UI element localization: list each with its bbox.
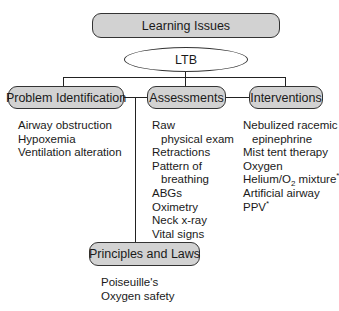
mixture-text: mixture bbox=[295, 173, 336, 185]
list-item: Nebulized racemic bbox=[243, 119, 339, 133]
ppv-text: PPV bbox=[243, 201, 266, 213]
list-item: Poiseuille's bbox=[101, 276, 175, 290]
problem-identification-label: Problem Identification bbox=[6, 91, 126, 105]
principles-list: Poiseuille's Oxygen safety bbox=[101, 276, 175, 303]
list-item: physical exam bbox=[152, 133, 234, 147]
list-item: Ventilation alteration bbox=[18, 146, 122, 160]
list-item: Oxygen bbox=[243, 160, 339, 174]
assessments-label: Assessments bbox=[149, 91, 223, 105]
list-item: Raw bbox=[152, 119, 234, 133]
list-item: Retractions bbox=[152, 146, 234, 160]
interventions-list: Nebulized racemic epinephrine Mist tent … bbox=[243, 119, 339, 214]
interventions-label: Interventions bbox=[250, 91, 322, 105]
list-item: Helium/O2 mixture* bbox=[243, 173, 339, 187]
principles-and-laws-node: Principles and Laws bbox=[89, 242, 200, 266]
connector-horizontal-bar bbox=[63, 77, 286, 78]
list-item: PPV* bbox=[243, 201, 339, 215]
interventions-node: Interventions bbox=[249, 86, 323, 109]
list-item: Airway obstruction bbox=[18, 119, 122, 133]
list-item: Mist tent therapy bbox=[243, 146, 339, 160]
principles-and-laws-label: Principles and Laws bbox=[89, 247, 200, 261]
asterisk: * bbox=[266, 199, 269, 208]
list-item: Neck x-ray bbox=[152, 214, 234, 228]
connector-assessments-interventions bbox=[225, 97, 249, 98]
ltb-node: LTB bbox=[124, 47, 248, 72]
ltb-label: LTB bbox=[175, 53, 197, 67]
connector-to-problem bbox=[63, 77, 64, 86]
list-item: Oximetry bbox=[152, 201, 234, 215]
learning-issues-label: Learning Issues bbox=[142, 19, 230, 33]
list-item: Artificial airway bbox=[243, 187, 339, 201]
list-item: Vital signs bbox=[152, 228, 234, 242]
connector-vertical-to-principles bbox=[135, 97, 136, 242]
helium-text: Helium/O bbox=[243, 173, 291, 185]
problem-list: Airway obstruction Hypoxemia Ventilation… bbox=[18, 119, 122, 160]
assessments-list: Raw physical exam Retractions Pattern of… bbox=[152, 119, 234, 241]
learning-issues-node: Learning Issues bbox=[92, 13, 280, 38]
list-item: breathing bbox=[152, 173, 234, 187]
list-item: epinephrine bbox=[243, 133, 339, 147]
problem-identification-node: Problem Identification bbox=[8, 86, 124, 109]
list-item: Oxygen safety bbox=[101, 290, 175, 304]
connector-to-interventions bbox=[285, 77, 286, 86]
list-item: Pattern of bbox=[152, 160, 234, 174]
assessments-node: Assessments bbox=[147, 86, 226, 109]
connector-to-assessments bbox=[185, 77, 186, 86]
list-item: ABGs bbox=[152, 187, 234, 201]
list-item: Hypoxemia bbox=[18, 133, 122, 147]
